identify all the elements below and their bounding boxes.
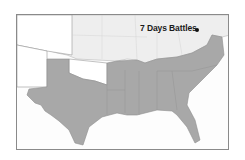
map-frame: [16, 14, 229, 150]
map-svg: [17, 15, 229, 150]
point-marker-icon: [195, 28, 199, 32]
new-mexico-territory: [17, 45, 47, 87]
battle-label: 7 Days Battles: [140, 23, 197, 33]
